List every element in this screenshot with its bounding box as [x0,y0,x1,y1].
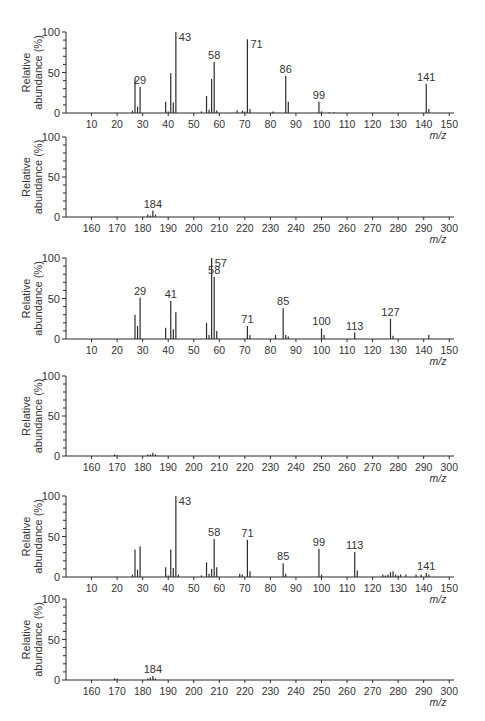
x-tick-label: 90 [290,118,302,130]
x-tick-label: 220 [236,461,254,473]
x-tick-label: 160 [83,685,101,697]
x-tick-label: 270 [364,461,382,473]
y-tick-label: 100 [42,131,60,143]
y-tick-label: 0 [54,674,60,686]
x-tick-label: 220 [236,222,254,234]
x-tick-label: 10 [86,344,98,356]
x-tick-label: 280 [389,222,407,234]
x-tick-label: 120 [364,344,382,356]
x-tick-label: 170 [108,222,126,234]
peak-label: 113 [346,539,364,551]
spectrum-panel-4: 050100Relativeabundance (%)1601701801902… [20,370,458,484]
y-tick-label: 50 [48,634,60,646]
x-tick-label: 210 [211,685,229,697]
peak-label: 58 [208,264,220,276]
x-tick-label: 270 [364,685,382,697]
y-tick-label: 50 [48,67,60,79]
y-tick-label: 50 [48,531,60,543]
x-tick-label: 180 [134,461,152,473]
x-tick-label: 230 [262,685,280,697]
peak-label: 127 [381,306,399,318]
y-axis-label: Relativeabundance (%) [20,35,44,110]
peak-label: 29 [134,74,146,86]
x-tick-label: 250 [313,461,331,473]
peak-label: 113 [346,320,364,332]
x-axis-label: m/z [430,593,448,605]
peak-label: 43 [179,495,191,507]
x-tick-label: 230 [262,461,280,473]
peak-label: 99 [313,536,325,548]
x-tick-label: 20 [111,582,123,594]
x-tick-label: 190 [159,222,177,234]
x-tick-label: 230 [262,222,280,234]
x-axis-label: m/z [430,472,448,484]
y-tick-label: 0 [54,571,60,583]
x-tick-label: 50 [188,344,200,356]
x-tick-label: 110 [339,582,356,594]
x-tick-label: 160 [83,222,101,234]
x-tick-label: 170 [108,685,126,697]
x-tick-label: 110 [339,118,356,130]
x-tick-label: 120 [364,118,382,130]
spectrum-panel-5: 050100Relativeabundance (%)1020304050607… [20,490,458,605]
x-tick-label: 120 [364,582,382,594]
y-tick-label: 50 [48,171,60,183]
y-tick-label: 0 [54,450,60,462]
x-tick-label: 250 [313,222,331,234]
x-tick-label: 10 [86,582,98,594]
x-tick-label: 260 [338,461,356,473]
x-tick-label: 80 [265,582,277,594]
peak-label: 71 [250,38,262,50]
x-tick-label: 240 [287,461,305,473]
x-tick-label: 80 [265,344,277,356]
spectrum-panel-2: 050100Relativeabundance (%)1601701801902… [20,131,458,245]
y-axis-label: Relativeabundance (%) [20,499,44,574]
peak-label: 85 [277,295,289,307]
y-tick-label: 100 [42,26,60,38]
x-tick-label: 90 [290,344,302,356]
x-tick-label: 50 [188,582,200,594]
x-tick-label: 60 [213,344,225,356]
x-tick-label: 100 [313,582,331,594]
x-tick-label: 90 [290,582,302,594]
peak-label: 85 [277,550,289,562]
peak-label: 141 [417,560,435,572]
x-tick-label: 180 [134,685,152,697]
x-tick-label: 240 [287,222,305,234]
x-tick-label: 20 [111,344,123,356]
x-tick-label: 130 [389,582,407,594]
x-tick-label: 40 [162,582,174,594]
x-tick-label: 10 [86,118,98,130]
x-axis-label: m/z [430,129,448,141]
x-tick-label: 160 [83,461,101,473]
x-tick-label: 210 [211,461,229,473]
y-tick-label: 0 [54,211,60,223]
y-tick-label: 100 [42,252,60,264]
x-tick-label: 70 [239,344,251,356]
x-tick-label: 250 [313,685,331,697]
peak-label: 71 [241,313,253,325]
y-tick-label: 100 [42,370,60,382]
x-axis-label: m/z [430,233,448,245]
x-tick-label: 60 [213,118,225,130]
x-tick-label: 20 [111,118,123,130]
y-tick-label: 100 [42,490,60,502]
x-tick-label: 260 [338,222,356,234]
y-tick-label: 50 [48,410,60,422]
peak-label: 141 [417,71,435,83]
x-tick-label: 280 [389,685,407,697]
y-tick-label: 100 [42,593,60,605]
x-tick-label: 70 [239,582,251,594]
peak-label: 41 [165,288,177,300]
x-tick-label: 240 [287,685,305,697]
peak-label: 86 [280,63,292,75]
x-tick-label: 270 [364,222,382,234]
x-tick-label: 30 [137,344,149,356]
x-tick-label: 30 [137,582,149,594]
peak-label: 58 [208,526,220,538]
peak-label: 100 [312,315,330,327]
spectrum-panel-3: 050100Relativeabundance (%)1020304050607… [20,252,458,367]
x-axis-label: m/z [430,696,448,708]
x-tick-label: 280 [389,461,407,473]
x-tick-label: 50 [188,118,200,130]
